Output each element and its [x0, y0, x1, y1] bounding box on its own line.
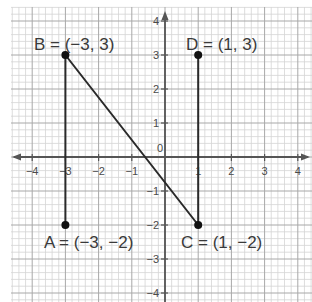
y-tick-label: −1 [146, 185, 159, 197]
x-tick-label: −4 [26, 165, 39, 177]
y-tick-label: 1 [153, 117, 159, 129]
y-tick-label: 2 [153, 83, 159, 95]
y-tick-label: 3 [153, 49, 159, 61]
x-tick-label: −1 [126, 165, 139, 177]
y-tick-label: −2 [146, 219, 159, 231]
label-point-c: C = (1, −2) [181, 233, 262, 252]
x-tick-label: 2 [228, 165, 234, 177]
y-axis-arrow-up-icon [162, 11, 169, 20]
label-point-b: B = (−3, 3) [34, 35, 114, 54]
y-tick-label: −3 [146, 253, 159, 265]
label-point-d: D = (1, 3) [186, 35, 257, 54]
point-c-icon [194, 221, 202, 229]
x-tick-label: 3 [262, 165, 268, 177]
y-tick-label: −4 [146, 287, 159, 299]
y-tick-label: 4 [153, 15, 159, 27]
label-point-a: A = (−3, −2) [44, 233, 133, 252]
x-tick-label: 4 [295, 165, 301, 177]
x-tick-label: −2 [92, 165, 105, 177]
x-axis-arrow-left-icon [12, 154, 21, 161]
x-axis-arrow-right-icon [301, 154, 310, 161]
origin-label: 0 [157, 142, 163, 154]
coordinate-plane: −4−3−2−112344321−1−2−3−40 B = (−3, 3) D … [0, 0, 312, 302]
point-a-icon [61, 221, 69, 229]
